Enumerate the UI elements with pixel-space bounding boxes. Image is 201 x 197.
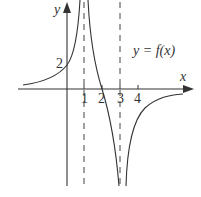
x-axis-arrow-icon bbox=[183, 85, 194, 93]
function-label: y = f(x) bbox=[133, 44, 175, 58]
y-axis-arrow-icon bbox=[63, 2, 71, 13]
function-graph: y x y = f(x) 2 1 2 3 4 bbox=[0, 0, 201, 197]
right-branch bbox=[126, 94, 183, 186]
x-axis-label: x bbox=[180, 70, 186, 84]
y-intercept-label: 2 bbox=[56, 57, 63, 71]
x-axis bbox=[18, 85, 194, 93]
x-tick-label-3: 3 bbox=[117, 92, 124, 106]
x-tick-label-1: 1 bbox=[81, 92, 88, 106]
left-branch bbox=[23, 0, 80, 85]
y-axis bbox=[63, 2, 71, 186]
y-axis-label: y bbox=[54, 3, 60, 17]
x-tick-label-2: 2 bbox=[98, 92, 105, 106]
x-tick-label-4: 4 bbox=[134, 92, 141, 106]
x-ticks bbox=[84, 85, 138, 89]
